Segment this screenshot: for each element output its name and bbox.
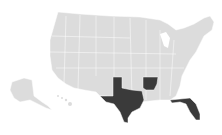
state-hawaii[interactable]: [57, 95, 72, 106]
state-alaska[interactable]: [10, 78, 52, 110]
us-map: [0, 0, 222, 135]
state-florida[interactable]: [170, 98, 200, 120]
